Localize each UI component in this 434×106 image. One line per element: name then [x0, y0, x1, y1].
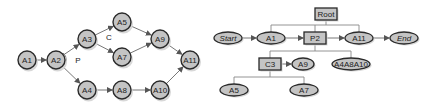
edge-A2-A3	[63, 45, 78, 55]
graph-node-a3[interactable]: A3	[78, 30, 98, 51]
node-label: A7	[299, 86, 309, 95]
node-label: A3	[82, 35, 92, 44]
node-label: End	[397, 34, 412, 43]
node-label: A1	[266, 34, 276, 43]
graph-node-a8[interactable]: A8	[113, 81, 133, 102]
node-label: C3	[265, 60, 276, 69]
tree-node-start[interactable]: Start	[214, 32, 244, 46]
node-label: A5	[117, 18, 127, 27]
tree-node-a4a8a10[interactable]: A4A8A10	[332, 58, 372, 72]
node-label: A11	[183, 56, 197, 65]
graph-node-a5[interactable]: A5	[113, 13, 133, 34]
graph-node-a7[interactable]: A7	[113, 48, 133, 69]
node-label: A7	[117, 53, 127, 62]
node-label: A8	[117, 86, 127, 95]
node-label: P2	[310, 34, 320, 43]
tree-node-c3[interactable]: C3	[259, 58, 283, 72]
tree-node-a11[interactable]: A11	[345, 32, 375, 46]
edge-A7-A9	[130, 43, 151, 53]
node-label: A11	[352, 34, 366, 43]
node-label: A10	[153, 86, 168, 95]
graph-node-a4[interactable]: A4	[78, 81, 98, 102]
process-tree: RootStartA1P2A11EndC3A9A4A8A10A5A7	[214, 8, 420, 98]
tree-node-a9[interactable]: A9	[292, 58, 316, 72]
graph-node-a1[interactable]: A1	[18, 51, 38, 72]
annotation-c: C	[106, 33, 112, 42]
node-label: A1	[22, 56, 32, 65]
edge-A10-A11	[166, 67, 183, 84]
node-label: Start	[220, 34, 238, 43]
tree-node-root[interactable]: Root	[315, 8, 339, 22]
tree-node-p2[interactable]: P2	[304, 32, 328, 46]
node-label: A9	[298, 60, 308, 69]
edge-A5-A9	[130, 26, 151, 35]
graph-node-a9[interactable]: A9	[151, 30, 171, 51]
diagram-canvas: PCA1A2A3A4A5A7A9A8A10A11 RootStartA1P2A1…	[0, 0, 434, 106]
tree-node-a1[interactable]: A1	[257, 32, 287, 46]
process-graph: PCA1A2A3A4A5A7A9A8A10A11	[18, 13, 201, 102]
annotation-p: P	[75, 56, 80, 65]
tree-node-a7[interactable]: A7	[290, 84, 320, 98]
node-label: A2	[51, 56, 61, 65]
node-label: A9	[155, 35, 165, 44]
edge-A2-A4	[62, 66, 79, 83]
node-label: A5	[229, 86, 239, 95]
tree-node-end[interactable]: End	[390, 32, 420, 46]
tree-node-a5[interactable]: A5	[220, 84, 250, 98]
graph-node-a10[interactable]: A10	[151, 81, 171, 102]
tree-links	[234, 20, 359, 84]
node-label: Root	[318, 10, 336, 19]
graph-node-a11[interactable]: A11	[181, 51, 201, 72]
node-label: A4	[82, 86, 92, 95]
edge-A3-A7	[95, 43, 113, 52]
node-label: A4A8A10	[334, 60, 368, 69]
